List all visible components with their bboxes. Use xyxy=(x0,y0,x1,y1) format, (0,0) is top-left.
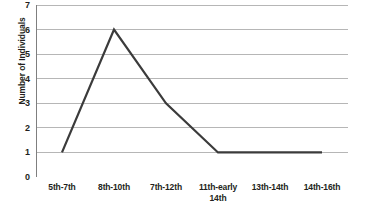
y-axis-tick-label: 7 xyxy=(14,1,30,10)
line-chart: Number of Individuals 01234567 5th-7th8t… xyxy=(0,0,366,219)
x-axis-tick-label-line1: 11th-early xyxy=(199,182,237,192)
y-axis-tick-label: 3 xyxy=(14,99,30,108)
x-axis-tick-label: 5th-7th xyxy=(36,182,88,216)
x-axis-tick-label-line1: 8th-10th xyxy=(98,182,130,192)
x-axis-tick-labels: 5th-7th8th-10th7th-12th11th-early14th13t… xyxy=(36,182,348,216)
y-axis-tick-label: 5 xyxy=(14,50,30,59)
x-axis-tick-label-line1: 5th-7th xyxy=(48,182,75,192)
gridlines xyxy=(36,5,348,177)
y-axis-tick-label: 1 xyxy=(14,148,30,157)
series-polyline xyxy=(62,30,322,153)
plot-area xyxy=(36,5,348,177)
plot-svg xyxy=(36,5,348,177)
x-axis-tick-label-line2: 14th xyxy=(192,193,244,204)
y-axis-tick-label: 6 xyxy=(14,25,30,34)
y-axis-tick-labels: 01234567 xyxy=(14,5,30,177)
y-axis-tick-label: 4 xyxy=(14,74,30,83)
x-axis-tick-label: 13th-14th xyxy=(244,182,296,216)
y-axis-tick-label: 0 xyxy=(14,173,30,182)
x-axis-tick-label: 14th-16th xyxy=(296,182,348,216)
data-series-line xyxy=(62,30,322,153)
x-axis-tick-label-line1: 7th-12th xyxy=(150,182,182,192)
x-axis-tick-label: 7th-12th xyxy=(140,182,192,216)
x-axis-tick-label: 11th-early14th xyxy=(192,182,244,216)
x-axis-tick-label-line1: 14th-16th xyxy=(304,182,340,192)
y-axis-tick-label: 2 xyxy=(14,123,30,132)
x-axis-tick-label: 8th-10th xyxy=(88,182,140,216)
x-axis-tick-label-line1: 13th-14th xyxy=(252,182,288,192)
